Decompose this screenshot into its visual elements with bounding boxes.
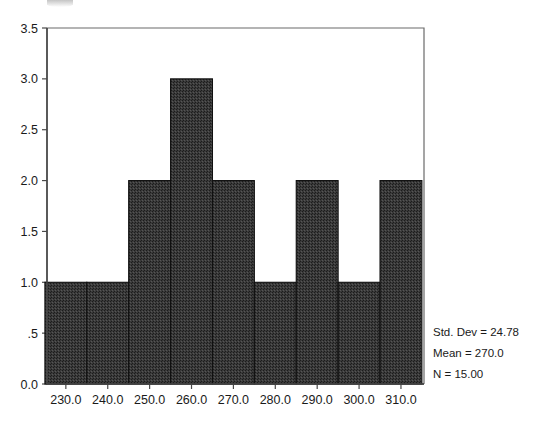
std-dev-annotation: Std. Dev = 24.78: [433, 322, 533, 343]
x-tick-label: 310.0: [385, 393, 416, 407]
y-tick-label: .5: [28, 327, 38, 341]
histogram-bar: [171, 79, 213, 384]
y-tick-label: 2.5: [21, 123, 38, 137]
mean-annotation: Mean = 270.0: [433, 343, 533, 364]
histogram-bar: [380, 181, 422, 384]
histogram-bar: [212, 181, 254, 384]
histogram-bar: [45, 282, 87, 384]
y-tick-label: 0.0: [21, 378, 38, 392]
histogram-bar: [338, 282, 380, 384]
histogram-bar: [87, 282, 129, 384]
x-axis-tick-labels: 230.0240.0250.0260.0270.0280.0290.0300.0…: [50, 393, 416, 407]
y-tick-label: 2.0: [21, 174, 38, 188]
x-tick-label: 290.0: [302, 393, 333, 407]
histogram-bar: [129, 181, 171, 384]
x-axis-ticks: [66, 384, 401, 389]
x-tick-label: 270.0: [218, 393, 249, 407]
histogram-figure: 0.0.51.01.52.02.53.03.5 230.0240.0250.02…: [0, 0, 533, 429]
histogram-bar: [296, 181, 338, 384]
y-tick-label: 1.0: [21, 276, 38, 290]
x-tick-label: 260.0: [176, 393, 207, 407]
x-tick-label: 280.0: [260, 393, 291, 407]
y-tick-label: 3.5: [21, 22, 38, 36]
histogram-bar: [254, 282, 296, 384]
x-tick-label: 300.0: [343, 393, 374, 407]
x-tick-label: 230.0: [50, 393, 81, 407]
histogram-bars: [45, 28, 424, 384]
y-axis-tick-labels: 0.0.51.01.52.02.53.03.5: [21, 22, 38, 392]
y-tick-label: 1.5: [21, 225, 38, 239]
n-annotation: N = 15.00: [433, 364, 533, 385]
y-tick-label: 3.0: [21, 72, 38, 86]
x-tick-label: 240.0: [92, 393, 123, 407]
statistics-annotation-block: Std. Dev = 24.78 Mean = 270.0 N = 15.00: [433, 322, 533, 385]
x-tick-label: 250.0: [134, 393, 165, 407]
